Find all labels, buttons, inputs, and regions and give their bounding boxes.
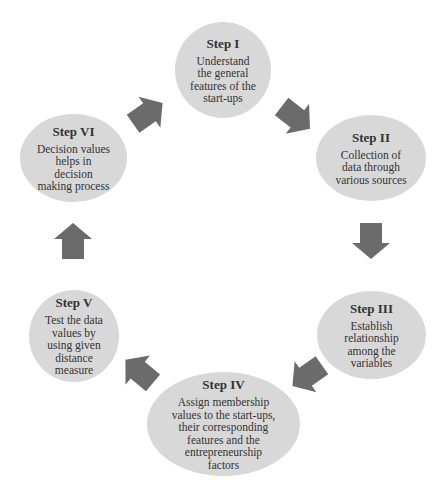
step-3-line: relationship (344, 332, 398, 345)
step-3-line: variables (344, 357, 398, 370)
step-2-line: Collection of (335, 149, 406, 162)
step-4-line: their corresponding (172, 421, 275, 434)
step-6-title: Step VI (52, 124, 94, 140)
step-4-line: Assign membership (172, 396, 275, 409)
step-1-line: the general (190, 67, 256, 80)
step-1-line: Understand (190, 55, 256, 68)
step-5-title: Step V (56, 295, 93, 311)
step-1-node: Step I Understand the general features o… (175, 22, 271, 118)
step-5-description: Test the data values by using given dist… (45, 314, 103, 377)
step-5-line: distance (45, 352, 103, 365)
step-3-title: Step III (350, 301, 393, 317)
step-4-node: Step IV Assign membership values to the … (147, 372, 300, 476)
step-6-line: helps in (37, 155, 110, 168)
step-3-line: Establish (344, 320, 398, 333)
step-6-description: Decision values helps in decision making… (37, 143, 110, 193)
step-2-description: Collection of data through various sourc… (335, 149, 406, 187)
step-4-line: values to the start-ups, (172, 409, 275, 422)
step-4-line: factors (172, 459, 275, 472)
step-2-title: Step II (352, 130, 390, 146)
step-2-line: various sources (335, 174, 406, 187)
step-5-line: using given (45, 339, 103, 352)
arrow-down-icon (352, 223, 390, 259)
step-3-line: among the (344, 345, 398, 358)
arrow-down-right-icon (270, 92, 322, 144)
step-1-line: features of the (190, 80, 256, 93)
step-6-line: making process (37, 180, 110, 193)
step-3-description: Establish relationship among the variabl… (344, 320, 398, 370)
step-3-node: Step III Establish relationship among th… (317, 291, 426, 379)
step-6-node: Step VI Decision values helps in decisio… (20, 114, 127, 202)
arrow-up-left-icon (113, 345, 165, 397)
step-4-line: entrepreneurship (172, 446, 275, 459)
step-5-line: Test the data (45, 314, 103, 327)
step-5-line: measure (45, 364, 103, 377)
step-4-description: Assign membership values to the start-up… (172, 396, 275, 471)
step-6-line: Decision values (37, 143, 110, 156)
step-4-title: Step IV (202, 377, 244, 393)
arrow-up-right-icon (122, 88, 173, 140)
step-6-line: decision (37, 168, 110, 181)
step-4-line: features and the (172, 434, 275, 447)
arrow-up-icon (54, 223, 92, 259)
step-5-line: values by (45, 327, 103, 340)
step-5-node: Step V Test the data values by using giv… (29, 290, 119, 382)
step-1-title: Step I (207, 36, 240, 52)
step-2-line: data through (335, 161, 406, 174)
step-1-description: Understand the general features of the s… (190, 55, 256, 105)
step-2-node: Step II Collection of data through vario… (316, 115, 426, 201)
step-1-line: start-ups (190, 92, 256, 105)
